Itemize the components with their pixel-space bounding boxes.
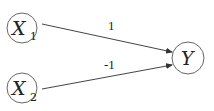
node-label: X [10,77,27,99]
edge-weight-label: -1 [104,57,115,72]
node-y: Y [172,42,204,74]
edge-x1-to-y: 1 [42,18,172,52]
node-label: X [10,17,27,39]
node-x2: X 2 [7,73,37,104]
edge-x2-to-y: -1 [42,57,172,89]
node-x1: X 1 [7,13,37,43]
neural-network-diagram: 1 -1 X 1 X 2 Y [0,0,214,111]
node-subscript: 2 [30,91,37,104]
edge-weight-label: 1 [108,18,115,33]
node-subscript: 1 [30,30,37,43]
